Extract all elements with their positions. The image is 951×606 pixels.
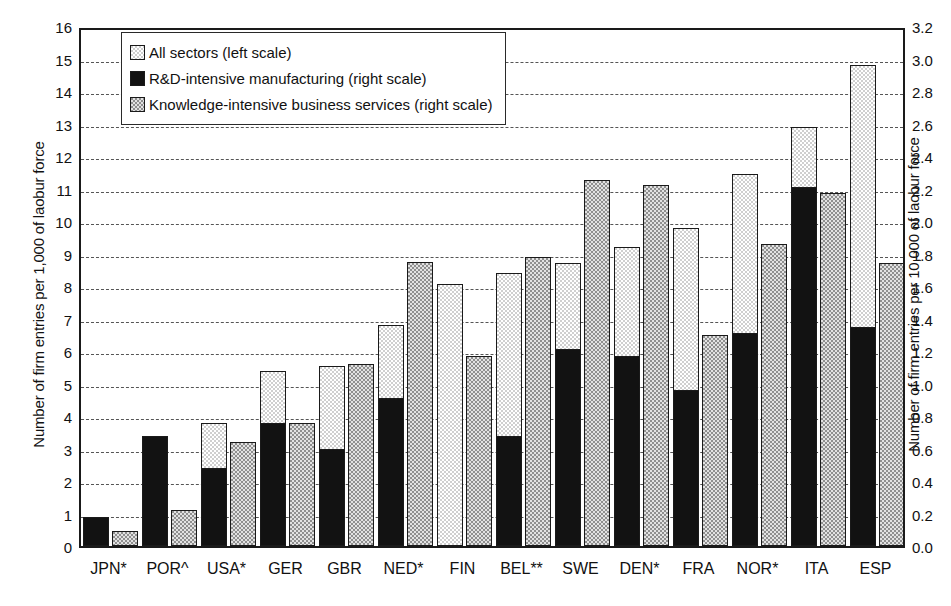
y-tick-label-right: 0.2 xyxy=(912,508,951,523)
y-tick-label-left: 3 xyxy=(30,443,72,458)
bar-rd-intensive-manufacturing xyxy=(732,333,759,546)
x-axis-label: NOR* xyxy=(728,560,787,578)
legend-item-label: Knowledge-intensive business services (r… xyxy=(149,96,493,113)
bar-knowledge-intensive-services xyxy=(879,263,903,546)
bar-knowledge-intensive-services xyxy=(230,442,257,546)
y-tick-label-right: 2.4 xyxy=(912,150,951,165)
legend-swatch-icon xyxy=(130,97,145,112)
y-tick-label-left: 8 xyxy=(30,280,72,295)
y-tick-label-left: 14 xyxy=(30,85,72,100)
x-axis-label: ESP xyxy=(846,560,905,578)
bar-knowledge-intensive-services xyxy=(466,356,493,546)
bar-rd-intensive-manufacturing xyxy=(83,517,110,546)
x-axis-label: FRA xyxy=(669,560,728,578)
y-tick-label-left: 16 xyxy=(30,20,72,35)
bar-knowledge-intensive-services xyxy=(584,180,611,546)
bar-knowledge-intensive-services xyxy=(171,510,198,546)
y-tick-label-left: 6 xyxy=(30,345,72,360)
bar-chart: Number of firm entries per 1,000 of laob… xyxy=(0,0,951,606)
x-axis-label: ITA xyxy=(787,560,846,578)
y-tick-label-right: 2.2 xyxy=(912,183,951,198)
bar-rd-intensive-manufacturing xyxy=(496,436,523,547)
y-axis-left-ticks: 012345678910111213141516 xyxy=(26,0,72,606)
y-tick-label-right: 2.6 xyxy=(912,118,951,133)
bar-knowledge-intensive-services xyxy=(820,193,847,546)
y-tick-label-right: 2.8 xyxy=(912,85,951,100)
y-axis-right-ticks: 0.00.20.40.60.81.01.21.41.61.82.02.22.42… xyxy=(912,0,951,606)
bar-group xyxy=(614,30,669,546)
y-tick-label-left: 4 xyxy=(30,410,72,425)
y-tick-label-left: 11 xyxy=(30,183,72,198)
bar-rd-intensive-manufacturing xyxy=(319,449,346,547)
y-tick-label-left: 7 xyxy=(30,313,72,328)
y-tick-label-left: 12 xyxy=(30,150,72,165)
y-tick-label-left: 15 xyxy=(30,53,72,68)
y-tick-label-right: 1.4 xyxy=(912,313,951,328)
x-axis-label: GBR xyxy=(315,560,374,578)
bar-rd-intensive-manufacturing xyxy=(142,436,169,547)
bar-rd-intensive-manufacturing xyxy=(673,390,700,546)
bar-knowledge-intensive-services xyxy=(348,364,375,546)
bar-group xyxy=(673,30,728,546)
y-tick-label-right: 3.0 xyxy=(912,53,951,68)
x-axis-label: NED* xyxy=(374,560,433,578)
bar-rd-intensive-manufacturing xyxy=(260,423,287,547)
y-tick-label-right: 3.2 xyxy=(912,20,951,35)
y-tick-label-right: 0.0 xyxy=(912,540,951,555)
bar-rd-intensive-manufacturing xyxy=(614,356,641,546)
x-axis-label: POR^ xyxy=(138,560,197,578)
y-tick-label-left: 5 xyxy=(30,378,72,393)
legend-swatch-icon xyxy=(130,45,145,60)
y-tick-label-right: 1.0 xyxy=(912,378,951,393)
bar-knowledge-intensive-services xyxy=(702,335,729,546)
bar-knowledge-intensive-services xyxy=(761,244,788,546)
bar-rd-intensive-manufacturing xyxy=(850,327,877,546)
x-axis-label: JPN* xyxy=(79,560,138,578)
bar-knowledge-intensive-services xyxy=(289,423,316,547)
x-axis-label: USA* xyxy=(197,560,256,578)
y-tick-label-right: 1.2 xyxy=(912,345,951,360)
y-tick-label-right: 0.4 xyxy=(912,475,951,490)
x-axis-label: BEL** xyxy=(492,560,551,578)
bar-rd-intensive-manufacturing xyxy=(555,349,582,546)
y-tick-label-left: 0 xyxy=(30,540,72,555)
legend-item-label: R&D-intensive manufacturing (right scale… xyxy=(149,70,427,87)
y-tick-label-right: 0.8 xyxy=(912,410,951,425)
legend-swatch-icon xyxy=(130,71,145,86)
bar-group xyxy=(850,30,903,546)
x-axis-label: FIN xyxy=(433,560,492,578)
y-tick-label-left: 9 xyxy=(30,248,72,263)
bar-all-sectors xyxy=(437,284,464,546)
y-tick-label-left: 10 xyxy=(30,215,72,230)
y-tick-label-right: 2.0 xyxy=(912,215,951,230)
y-tick-label-right: 0.6 xyxy=(912,443,951,458)
legend-item-label: All sectors (left scale) xyxy=(149,44,292,61)
bar-group xyxy=(555,30,610,546)
y-tick-label-left: 2 xyxy=(30,475,72,490)
bar-knowledge-intensive-services xyxy=(525,257,552,546)
bar-knowledge-intensive-services xyxy=(112,531,139,546)
bar-rd-intensive-manufacturing xyxy=(378,398,405,546)
chart-legend: All sectors (left scale)R&D-intensive ma… xyxy=(121,32,506,125)
y-tick-label-left: 1 xyxy=(30,508,72,523)
legend-item[interactable]: Knowledge-intensive business services (r… xyxy=(130,91,497,117)
y-tick-label-left: 13 xyxy=(30,118,72,133)
x-axis-label: SWE xyxy=(551,560,610,578)
y-tick-label-right: 1.8 xyxy=(912,248,951,263)
x-axis-label: DEN* xyxy=(610,560,669,578)
bar-rd-intensive-manufacturing xyxy=(201,468,228,546)
bar-knowledge-intensive-services xyxy=(407,262,434,546)
bar-group xyxy=(732,30,787,546)
bar-rd-intensive-manufacturing xyxy=(791,187,818,546)
legend-item[interactable]: All sectors (left scale) xyxy=(130,39,497,65)
legend-item[interactable]: R&D-intensive manufacturing (right scale… xyxy=(130,65,497,91)
bar-knowledge-intensive-services xyxy=(643,185,670,546)
bar-group xyxy=(791,30,846,546)
y-tick-label-right: 1.6 xyxy=(912,280,951,295)
x-axis-label: GER xyxy=(256,560,315,578)
